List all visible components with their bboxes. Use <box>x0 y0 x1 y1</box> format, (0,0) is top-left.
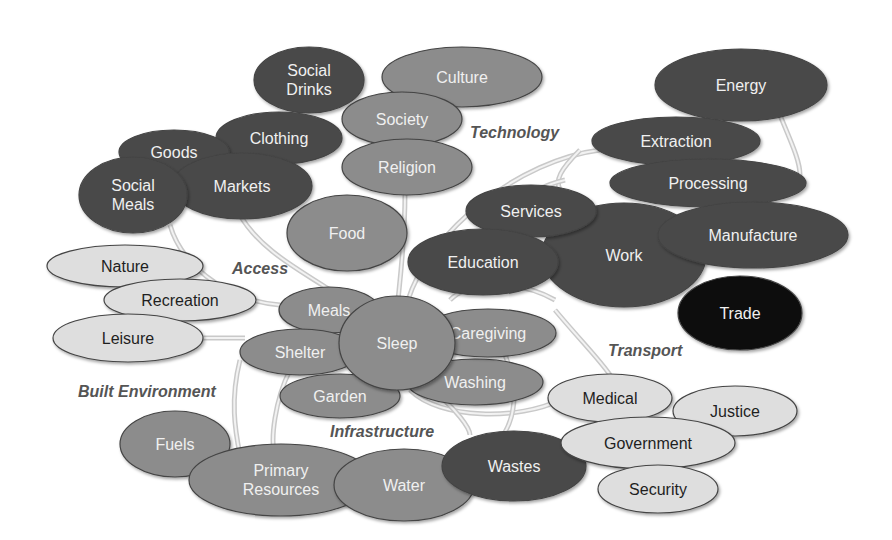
node-energy: Energy <box>655 49 827 121</box>
node-leisure: Leisure <box>53 314 203 362</box>
node-medical: Medical <box>548 374 672 422</box>
category-label-access: Access <box>231 260 288 277</box>
node-trade: Trade <box>678 276 802 350</box>
node-label: Primary <box>253 462 308 479</box>
node-manufacture: Manufacture <box>658 202 848 268</box>
node-label: Caregiving <box>450 325 526 342</box>
node-label: Garden <box>313 388 366 405</box>
node-label: Culture <box>436 69 488 86</box>
node-social-drinks: SocialDrinks <box>254 47 364 113</box>
node-label: Extraction <box>640 133 711 150</box>
node-label: Processing <box>668 175 747 192</box>
node-label: Social <box>287 62 331 79</box>
activity-nodes: CultureSocialDrinksSocietyReligionClothi… <box>47 47 848 521</box>
node-label: Religion <box>378 159 436 176</box>
node-label: Water <box>383 477 426 494</box>
node-label: Recreation <box>141 292 218 309</box>
node-processing: Processing <box>610 159 806 207</box>
node-sleep: Sleep <box>339 296 455 390</box>
node-extraction: Extraction <box>592 117 760 165</box>
node-education: Education <box>408 229 558 295</box>
node-label: Meals <box>308 302 351 319</box>
node-label: Services <box>500 203 561 220</box>
node-label: Trade <box>719 305 760 322</box>
node-label: Resources <box>243 481 319 498</box>
node-label: Nature <box>101 258 149 275</box>
node-social-meals: SocialMeals <box>79 157 187 233</box>
node-label: Security <box>629 481 687 498</box>
node-food: Food <box>287 195 407 271</box>
node-government: Government <box>561 417 735 469</box>
node-society: Society <box>342 92 462 146</box>
node-label: Government <box>604 435 693 452</box>
node-label: Markets <box>214 178 271 195</box>
node-label: Justice <box>710 403 760 420</box>
node-label: Clothing <box>250 130 309 147</box>
node-label: Food <box>329 225 365 242</box>
node-label: Sleep <box>377 335 418 352</box>
category-label-infrastructure: Infrastructure <box>330 423 434 440</box>
category-label-technology: Technology <box>470 124 560 141</box>
category-label-transport: Transport <box>608 342 683 359</box>
node-label: Leisure <box>102 330 155 347</box>
node-label: Education <box>447 254 518 271</box>
node-label: Fuels <box>155 436 194 453</box>
node-religion: Religion <box>342 139 472 195</box>
node-markets: Markets <box>172 153 312 219</box>
node-label: Society <box>376 111 428 128</box>
node-label: Meals <box>112 196 155 213</box>
node-label: Wastes <box>488 458 541 475</box>
node-label: Work <box>605 247 643 264</box>
node-security: Security <box>598 465 718 513</box>
node-label: Medical <box>582 390 637 407</box>
node-label: Shelter <box>275 344 326 361</box>
activity-bubble-diagram: CultureSocialDrinksSocietyReligionClothi… <box>0 0 892 540</box>
connector-line-highlight <box>273 370 290 455</box>
node-label: Manufacture <box>709 227 798 244</box>
connector-line-highlight <box>555 310 610 375</box>
node-label: Drinks <box>286 81 331 98</box>
node-label: Energy <box>716 77 767 94</box>
node-label: Goods <box>150 144 197 161</box>
node-label: Social <box>111 177 155 194</box>
node-label: Washing <box>444 374 506 391</box>
category-label-built-environment: Built Environment <box>78 383 216 400</box>
